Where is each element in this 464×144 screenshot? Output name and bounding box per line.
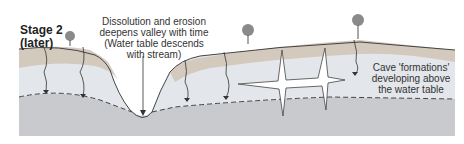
cave-annotation: Cave 'formations' developing above the w…	[365, 62, 457, 95]
karst-cross-section-diagram: Stage 2 (later) Dissolution and erosion …	[0, 0, 464, 144]
stage-subtitle-text: (later)	[20, 37, 63, 50]
tree-icon-left	[65, 31, 75, 46]
cave-annotation-line: Cave 'formations'	[365, 62, 457, 73]
cave-annotation-line: the water table	[365, 84, 457, 95]
valley-annotation-line: deepens valley with time	[88, 27, 220, 38]
valley-annotation: Dissolution and erosion deepens valley w…	[88, 16, 220, 60]
tree-icon-middle	[242, 24, 254, 44]
stage-title: Stage 2 (later)	[20, 24, 63, 50]
tree-icon-right	[352, 14, 364, 39]
valley-annotation-line: with stream)	[88, 49, 220, 60]
valley-annotation-line: Dissolution and erosion	[88, 16, 220, 27]
cave-annotation-line: developing above	[365, 73, 457, 84]
valley-annotation-line: (Water table descends	[88, 38, 220, 49]
